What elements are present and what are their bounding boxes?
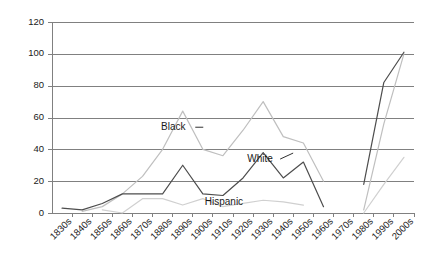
x-tick-label: 1920s	[228, 215, 254, 241]
y-tick-label: 60	[33, 111, 44, 122]
y-tick-label: 120	[28, 16, 44, 27]
x-tick-label: 1910s	[208, 215, 234, 241]
x-tick-label: 1850s	[88, 215, 114, 241]
y-tick-label: 0	[39, 207, 44, 218]
x-tick-label: 1880s	[148, 215, 174, 241]
x-tick-label: 1940s	[269, 215, 295, 241]
series-annotation-hispanic: Hispanic	[205, 196, 243, 207]
x-tick-label: 1890s	[168, 215, 194, 241]
y-tick-label: 20	[33, 175, 44, 186]
x-tick-label: 1840s	[67, 215, 93, 241]
y-tick-label: 40	[33, 143, 44, 154]
series-annotation-black: Black	[161, 121, 186, 132]
x-tick-label: 1830s	[47, 215, 73, 241]
x-tick-label: 1960s	[309, 215, 335, 241]
line-chart: 0204060801001201830s1840s1850s1860s1870s…	[0, 0, 427, 273]
chart-container: 0204060801001201830s1840s1850s1860s1870s…	[0, 0, 427, 273]
x-tick-label: 1950s	[289, 215, 315, 241]
x-tick-label: 1900s	[188, 215, 214, 241]
x-tick-label: 1860s	[108, 215, 134, 241]
x-tick-label: 1990s	[369, 215, 395, 241]
y-tick-label: 100	[28, 47, 44, 58]
x-tick-label: 2000s	[389, 215, 415, 241]
x-tick-label: 1980s	[349, 215, 375, 241]
x-tick-label: 1870s	[128, 215, 154, 241]
y-tick-label: 80	[33, 79, 44, 90]
series-annotation-white: White	[247, 153, 273, 164]
x-tick-label: 1970s	[329, 215, 355, 241]
x-tick-label: 1930s	[248, 215, 274, 241]
